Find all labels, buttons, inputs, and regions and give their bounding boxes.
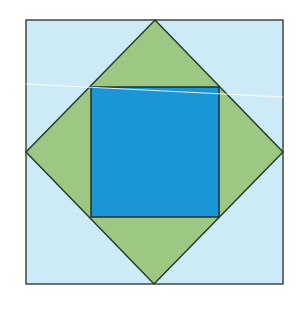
inner-square [91, 87, 219, 217]
nested-squares-diagram [0, 0, 299, 313]
